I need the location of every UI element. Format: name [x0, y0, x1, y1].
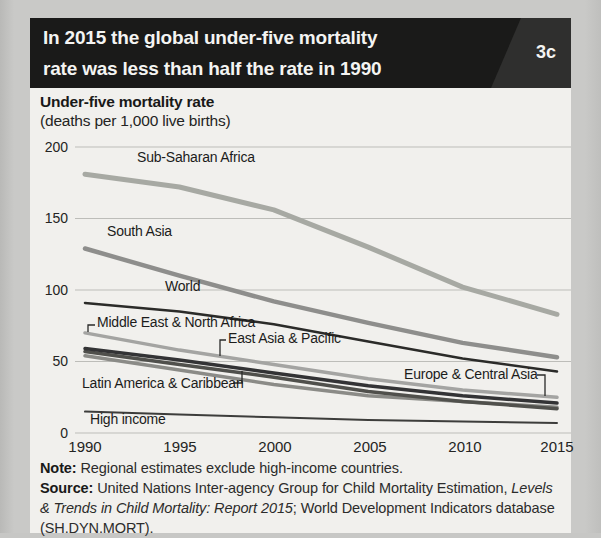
connector-east-asia-pacific	[220, 340, 226, 356]
source-text-1: United Nations Inter-agency Group for Ch…	[93, 480, 511, 496]
connector-europe-central-asia	[537, 375, 545, 396]
footer-notes: Note: Regional estimates exclude high-in…	[40, 458, 556, 538]
label-middle-east-north-africa: Middle East & North Africa	[97, 314, 255, 330]
label-south-asia: South Asia	[107, 223, 172, 239]
label-world: World	[165, 278, 200, 294]
source-line: Source: United Nations Inter-agency Grou…	[40, 478, 556, 538]
x-tick-2015: 2015	[534, 439, 580, 455]
label-high-income: High income	[90, 411, 166, 427]
x-tick-2005: 2005	[347, 439, 393, 455]
label-east-asia-pacific: East Asia & Pacific	[228, 330, 341, 346]
note-text: Regional estimates exclude high-income c…	[77, 460, 403, 476]
figure-title-line2: rate was less than half the rate in 1990	[43, 53, 381, 84]
figure-title-line1: In 2015 the global under-five mortality	[43, 22, 381, 53]
x-tick-2000: 2000	[252, 439, 298, 455]
figure-header: In 2015 the global under-five mortality …	[30, 18, 571, 88]
label-latin-america-caribbean: Latin America & Caribbean	[82, 375, 244, 391]
line-sub-saharan-africa	[85, 174, 557, 314]
x-tick-2010: 2010	[442, 439, 488, 455]
figure-number: 3c	[536, 42, 556, 63]
note-line: Note: Regional estimates exclude high-in…	[40, 458, 556, 478]
chart-title: Under-five mortality rate	[40, 93, 214, 111]
note-label: Note:	[40, 460, 77, 476]
label-europe-central-asia: Europe & Central Asia	[404, 366, 538, 382]
connector-middle-east-north-africa	[88, 325, 95, 332]
source-label: Source:	[40, 480, 93, 496]
figure-title: In 2015 the global under-five mortality …	[43, 22, 381, 84]
label-sub-saharan-africa: Sub-Saharan Africa	[137, 149, 255, 165]
x-tick-1995: 1995	[157, 439, 203, 455]
chart-subtitle: (deaths per 1,000 live births)	[40, 112, 230, 130]
x-tick-1990: 1990	[62, 439, 108, 455]
